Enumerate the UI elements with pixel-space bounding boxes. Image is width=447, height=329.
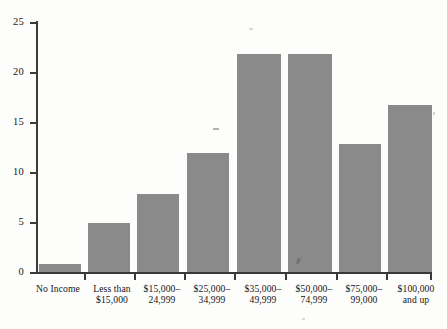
bar-50000-74999 (288, 54, 332, 272)
y-tick-label-20: 20 (2, 67, 24, 77)
x-label-line2: 49,999 (237, 294, 289, 305)
x-label-line1: $35,000– (237, 283, 289, 294)
y-tick-label-10: 10 (2, 167, 24, 177)
x-label-no-income: No Income (29, 283, 87, 294)
x-tick-6 (336, 273, 338, 280)
bar-15000-24999 (137, 194, 179, 272)
x-tick-7 (386, 273, 388, 280)
scan-speckle (433, 112, 435, 115)
bar-chart: 0 5 10 15 20 25 No Income Less than $15,… (0, 0, 447, 329)
x-label-line1: $100,000 (389, 283, 443, 294)
x-tick-8 (430, 273, 432, 280)
x-tick-4 (234, 273, 236, 280)
x-label-100000-and-up: $100,000 and up (389, 283, 443, 306)
y-tick-0 (30, 272, 38, 274)
x-label-line1: $15,000– (136, 283, 188, 294)
x-tick-1 (84, 273, 86, 280)
bar-no-income (39, 264, 81, 272)
x-label-line1: $50,000– (288, 283, 340, 294)
x-label-25000-34999: $25,000– 34,999 (186, 283, 238, 306)
y-tick-label-25: 25 (2, 17, 24, 27)
x-tick-3 (184, 273, 186, 280)
y-tick-label-5: 5 (2, 217, 24, 227)
x-label-less-than-15000: Less than $15,000 (87, 283, 137, 306)
bar-less-than-15000 (88, 223, 130, 272)
bar-35000-49999 (237, 54, 281, 272)
x-label-15000-24999: $15,000– 24,999 (136, 283, 188, 306)
x-label-50000-74999: $50,000– 74,999 (288, 283, 340, 306)
x-label-line2: 99,000 (338, 294, 390, 305)
y-tick-label-15: 15 (2, 117, 24, 127)
x-label-line2: 34,999 (186, 294, 238, 305)
scan-speckle (249, 28, 253, 30)
x-label-35000-49999: $35,000– 49,999 (237, 283, 289, 306)
x-label-line2: 24,999 (136, 294, 188, 305)
bars-layer (36, 20, 432, 272)
bar-75000-99000 (339, 144, 381, 272)
x-label-line1: $25,000– (186, 283, 238, 294)
x-label-line2: and up (389, 294, 443, 305)
x-label-line1: Less than (87, 283, 137, 294)
scan-speckle (302, 318, 305, 320)
y-tick-label-0: 0 (2, 267, 24, 277)
x-label-75000-99000: $75,000– 99,000 (338, 283, 390, 306)
x-label-line1: $75,000– (338, 283, 390, 294)
bar-100000-and-up (388, 105, 432, 272)
scan-speckle (213, 128, 219, 130)
x-label-line1: No Income (29, 283, 87, 294)
x-tick-2 (134, 273, 136, 280)
bar-25000-34999 (187, 153, 229, 272)
x-tick-5 (285, 273, 287, 280)
x-label-line2: 74,999 (288, 294, 340, 305)
x-label-line2: $15,000 (87, 294, 137, 305)
